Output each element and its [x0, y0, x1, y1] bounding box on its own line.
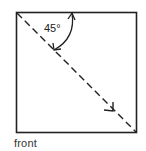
fold-direction-arrowhead-icon	[104, 102, 113, 111]
fold-diagram: 45°	[0, 0, 146, 151]
side-caption: front	[14, 137, 37, 149]
angle-label: 45°	[44, 22, 61, 34]
diagonal-fold-line	[17, 13, 136, 132]
arc-arrowhead-top-icon	[68, 13, 75, 20]
